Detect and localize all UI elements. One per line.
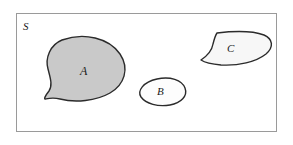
set-label-b: B: [157, 86, 164, 97]
set-shapes-canvas: [0, 0, 293, 145]
set-label-c: C: [227, 43, 234, 54]
set-diagram-figure: S A B C: [0, 0, 293, 145]
set-label-a: A: [80, 65, 87, 77]
universe-set-label: S: [23, 21, 29, 32]
set-region-c: [201, 32, 271, 65]
